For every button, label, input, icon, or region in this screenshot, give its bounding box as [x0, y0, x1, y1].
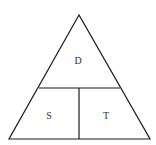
formula-triangle-diagram: D S T	[0, 0, 156, 145]
label-speed: S	[46, 110, 52, 121]
label-time: T	[103, 110, 109, 121]
label-distance: D	[74, 55, 81, 66]
